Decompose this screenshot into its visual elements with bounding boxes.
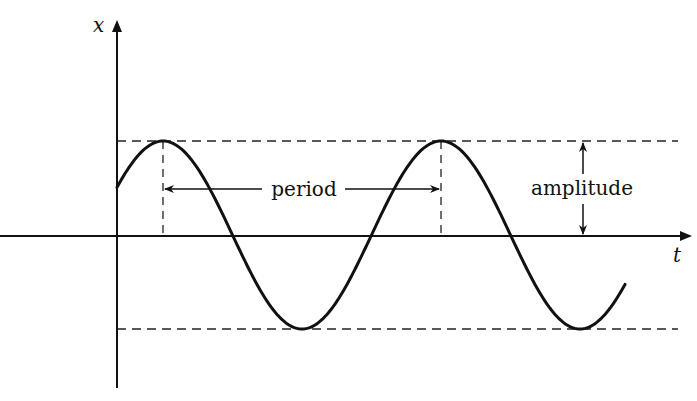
t-axis-label: t	[673, 243, 682, 267]
period-label: period	[271, 177, 337, 201]
sine-wave-curve	[117, 141, 625, 329]
amplitude-label: amplitude	[531, 176, 633, 200]
x-axis-label: x	[93, 13, 104, 37]
wave-diagram: x t period amplitude	[0, 0, 697, 401]
